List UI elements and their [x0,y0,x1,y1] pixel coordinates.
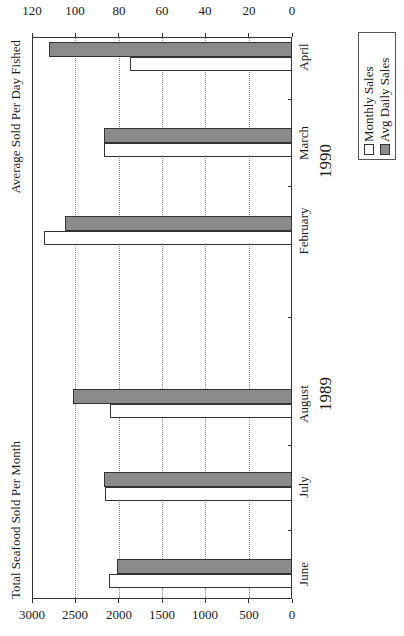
left-axis-tick-label: 3000 [12,607,52,623]
plot-area [32,37,292,599]
left-axis-tick [292,599,293,603]
right-axis-tick-label: 100 [55,3,95,19]
left-axis-title: Total Seafood Sold Per Month [8,441,24,599]
right-axis-tick [292,33,293,37]
right-axis-tick-label: 120 [12,3,52,19]
bar-avg-daily-sales [73,390,292,405]
gridline [205,38,206,598]
legend: Monthly Sales Avg Daily Sales [358,32,396,160]
gridline [75,38,76,598]
right-axis-tick [32,33,33,37]
left-axis-tick [248,599,249,603]
left-axis-tick [118,599,119,603]
legend-label-monthly: Monthly Sales [361,67,377,142]
category-tick [288,99,292,100]
legend-label-avg: Avg Daily Sales [377,58,393,142]
bar-monthly-sales [104,143,292,158]
right-axis-title: Average Sold Per Day Fished [8,40,24,194]
right-axis-tick [205,33,206,37]
category-tick [288,445,292,446]
bar-monthly-sales [44,231,292,246]
right-axis-tick [248,33,249,37]
legend-item-avg: Avg Daily Sales [377,37,393,155]
category-label: February [296,191,312,271]
gridline [162,38,163,598]
category-label: March [296,103,312,183]
category-label: April [296,17,312,97]
bar-avg-daily-sales [49,43,292,58]
left-axis-tick [32,599,33,603]
bar-monthly-sales [130,57,292,72]
category-label: August [296,364,312,444]
category-tick [288,530,292,531]
legend-item-monthly: Monthly Sales [361,37,377,155]
bar-avg-daily-sales [117,560,293,575]
right-axis-tick [162,33,163,37]
bar-monthly-sales [109,574,292,589]
right-axis-tick-label: 20 [229,3,269,19]
gridline [119,38,120,598]
year-label-1990: 1990 [316,131,336,191]
left-axis-tick-label: 2000 [99,607,139,623]
year-label-1989: 1989 [316,364,336,424]
right-axis-tick [75,33,76,37]
left-axis-tick-label: 2500 [55,607,95,623]
bar-avg-daily-sales [65,217,293,232]
chart-canvas: Total Seafood Sold Per Month Average Sol… [0,0,404,636]
right-axis-tick [118,33,119,37]
category-tick [288,317,292,318]
left-axis-tick-label: 1500 [142,607,182,623]
right-axis-tick-label: 40 [185,3,225,19]
bar-avg-daily-sales [104,473,293,488]
left-axis-tick-label: 500 [229,607,269,623]
category-tick [288,186,292,187]
monthly-swatch-icon [364,144,374,155]
bar-avg-daily-sales [104,129,293,144]
avg-swatch-icon [380,144,390,155]
right-axis-tick-label: 80 [99,3,139,19]
category-label: June [296,534,312,614]
left-axis-tick [162,599,163,603]
left-axis-tick-label: 1000 [185,607,225,623]
left-axis-tick [205,599,206,603]
left-axis-tick [75,599,76,603]
category-label: July [296,447,312,527]
bar-monthly-sales [110,404,292,419]
gridline [249,38,250,598]
bar-monthly-sales [105,487,292,502]
right-axis-tick-label: 60 [142,3,182,19]
